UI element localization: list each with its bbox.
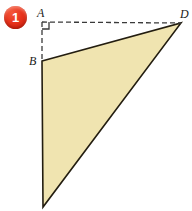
geometry-figure: A B D 1: [0, 0, 192, 211]
vertex-label-a: A: [37, 7, 44, 19]
dashed-segment-a-to-d: [42, 22, 181, 23]
shaded-triangle: [42, 23, 181, 207]
vertex-label-d: D: [180, 8, 189, 20]
vertex-label-b: B: [29, 55, 36, 67]
step-number-badge-label: 1: [12, 11, 19, 24]
right-angle-marker-icon: [42, 22, 49, 29]
step-number-badge: 1: [4, 6, 27, 29]
geometry-canvas: [0, 0, 192, 211]
